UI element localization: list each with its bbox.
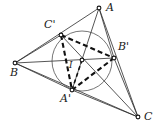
vertex-marker-C bbox=[136, 115, 140, 119]
label-A-prime: A' bbox=[60, 93, 71, 104]
dashed-segment-Cprime-Bprime bbox=[61, 35, 114, 58]
segment-B-A bbox=[15, 8, 99, 63]
vertex-marker-Bprime bbox=[112, 56, 116, 60]
vertex-marker-Cprime bbox=[59, 33, 63, 37]
label-B: B bbox=[10, 67, 18, 78]
label-C: C bbox=[144, 111, 152, 122]
segment-B-Cprime bbox=[15, 35, 61, 63]
label-C-prime: C' bbox=[44, 19, 55, 30]
segment-B-Bprime bbox=[15, 58, 114, 63]
vertex-marker-A bbox=[97, 6, 101, 10]
label-B-prime: B' bbox=[118, 41, 129, 52]
figure-canvas bbox=[0, 0, 161, 130]
label-A: A bbox=[106, 2, 114, 13]
segment-A-C bbox=[99, 8, 138, 117]
geometry-figure: A B C A' B' C' I bbox=[0, 0, 161, 130]
outer-triangle bbox=[15, 8, 138, 117]
segment-C-Aprime bbox=[72, 90, 138, 117]
label-I: I bbox=[69, 61, 73, 70]
vertex-marker-I bbox=[80, 58, 84, 62]
cevian-lines bbox=[15, 8, 138, 117]
segment-A-Bprime bbox=[99, 8, 114, 58]
vertex-marker-B bbox=[13, 61, 17, 65]
segment-B-Aprime bbox=[15, 63, 72, 90]
